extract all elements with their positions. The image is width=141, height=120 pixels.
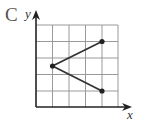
coordinate-grid-diagram: y x xyxy=(0,0,141,120)
y-axis-label: y xyxy=(23,6,31,21)
segments xyxy=(53,42,103,92)
x-axis-label: x xyxy=(126,107,133,120)
grid-lines xyxy=(36,25,118,107)
point-upper-right xyxy=(99,39,104,44)
point-left xyxy=(50,63,55,68)
points xyxy=(50,39,105,94)
axes xyxy=(36,14,128,107)
point-lower-right xyxy=(99,88,104,93)
